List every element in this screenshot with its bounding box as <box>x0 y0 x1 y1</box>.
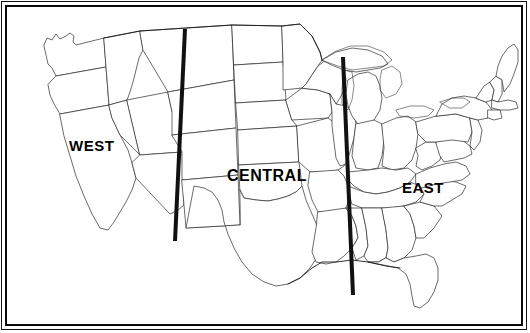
lake-huron <box>380 66 402 98</box>
state-south-dakota <box>234 62 286 103</box>
state-ohio <box>382 116 418 170</box>
state-pennsylvania <box>416 114 472 142</box>
lake-erie <box>396 106 434 118</box>
state-montana <box>140 25 234 92</box>
region-label-west: WEST <box>69 138 114 153</box>
state-texas <box>186 186 322 286</box>
state-new-jersey <box>470 118 482 150</box>
state-massachusetts <box>492 100 518 110</box>
state-arkansas <box>308 170 350 212</box>
region-map-figure: WEST CENTRAL EAST <box>0 0 530 333</box>
state-connecticut <box>488 110 502 120</box>
region-label-central: CENTRAL <box>227 168 307 184</box>
state-florida <box>368 254 438 308</box>
state-indiana <box>352 120 384 170</box>
state-idaho <box>104 31 143 105</box>
state-north-dakota <box>232 25 283 65</box>
region-label-east: EAST <box>402 180 444 195</box>
us-state-outlines <box>44 24 518 308</box>
state-iowa <box>286 88 332 120</box>
state-kansas <box>238 126 299 165</box>
